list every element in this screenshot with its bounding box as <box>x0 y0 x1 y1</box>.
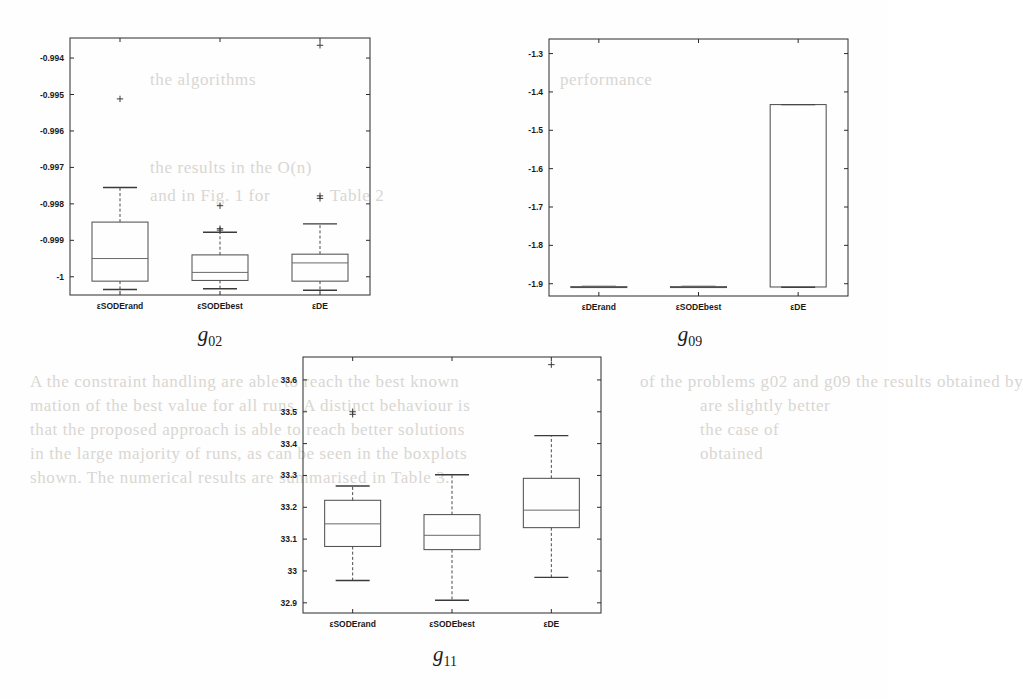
boxplot-g11-svg: 33.633.533.433.333.233.13332.9εSODErandε… <box>233 348 633 638</box>
boxplot-box-group <box>325 409 381 581</box>
y-tick-label: -1 <box>56 272 64 282</box>
plot-frame <box>70 38 370 295</box>
y-tick-label: -0.998 <box>40 199 64 209</box>
y-tick-label: -0.995 <box>40 90 64 100</box>
plot-frame <box>549 39 848 296</box>
y-tick-label: -0.996 <box>40 126 64 136</box>
x-tick-label: εSODErand <box>97 301 144 311</box>
bleed-text-line: obtained <box>700 444 763 464</box>
boxplot-box-group <box>424 475 480 600</box>
boxplot-g09-svg: -1.3-1.4-1.5-1.6-1.7-1.8-1.9εDErandεSODE… <box>479 28 879 318</box>
y-tick-label: -0.994 <box>40 53 64 63</box>
caption-main: g02 <box>198 322 223 346</box>
box-iqr <box>424 515 480 550</box>
boxplot-box-group <box>523 361 579 577</box>
x-tick-label: εSODEbest <box>429 619 475 629</box>
y-tick-label: -1.9 <box>528 279 543 289</box>
box-iqr <box>770 105 826 287</box>
y-tick-label: -1.7 <box>528 202 543 212</box>
box-iqr <box>92 222 148 281</box>
boxplot-box-group <box>192 202 248 288</box>
x-tick-label: εDErand <box>582 302 616 312</box>
y-tick-label: -1.4 <box>528 87 543 97</box>
y-tick-label: -1.5 <box>528 125 543 135</box>
bleed-text-line: the case of <box>700 420 779 440</box>
y-tick-label: -1.8 <box>528 240 543 250</box>
figure-caption-g09: g09 <box>630 322 750 350</box>
x-tick-label: εSODErand <box>329 619 376 629</box>
figure-caption-g02: g02 <box>150 322 270 350</box>
x-tick-label: εDE <box>790 302 806 312</box>
bleed-text-line: of the problems g02 and g09 the results … <box>640 372 1023 392</box>
x-tick-label: εSODEbest <box>197 301 243 311</box>
x-tick-label: εDE <box>312 301 328 311</box>
y-tick-label: 33 <box>288 566 298 576</box>
y-tick-label: -1.6 <box>528 164 543 174</box>
boxplot-box-group <box>571 286 627 287</box>
boxplot-g02-svg: -0.994-0.995-0.996-0.997-0.998-0.999-1εS… <box>0 28 400 318</box>
boxplot-figure-g11: 33.633.533.433.333.233.13332.9εSODErandε… <box>233 348 633 638</box>
box-iqr <box>192 255 248 281</box>
caption-main: g09 <box>678 322 703 346</box>
x-tick-label: εSODEbest <box>676 302 722 312</box>
figure-caption-g11: g11 <box>385 642 505 670</box>
x-tick-label: εDE <box>543 619 559 629</box>
boxplot-figure-g09: -1.3-1.4-1.5-1.6-1.7-1.8-1.9εDErandεSODE… <box>479 28 879 318</box>
y-tick-label: 33.1 <box>280 534 297 544</box>
y-tick-label: 33.6 <box>280 375 297 385</box>
y-tick-label: 33.5 <box>280 407 297 417</box>
bleed-text-line: are slightly better <box>700 396 830 416</box>
y-tick-label: 33.3 <box>280 470 297 480</box>
boxplot-figure-g02: -0.994-0.995-0.996-0.997-0.998-0.999-1εS… <box>0 28 400 318</box>
y-tick-label: -0.997 <box>40 162 64 172</box>
y-tick-label: 33.4 <box>280 439 297 449</box>
boxplot-box-group <box>671 286 727 287</box>
plot-frame <box>303 357 601 613</box>
boxplot-box-group <box>770 105 826 288</box>
boxplot-box-group <box>292 42 348 290</box>
box-iqr <box>292 254 348 281</box>
caption-main: g11 <box>433 642 457 666</box>
y-tick-label: -0.999 <box>40 235 64 245</box>
boxplot-box-group <box>92 96 148 290</box>
y-tick-label: 32.9 <box>280 598 297 608</box>
y-tick-label: 33.2 <box>280 502 297 512</box>
box-iqr <box>523 478 579 527</box>
y-tick-label: -1.3 <box>528 49 543 59</box>
